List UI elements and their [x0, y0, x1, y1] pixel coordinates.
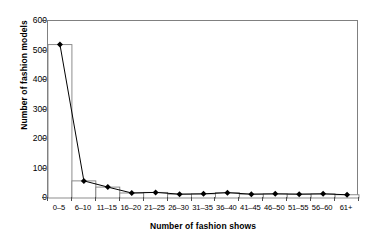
- y-tick-label: 0: [3, 192, 47, 202]
- x-tick-mark: [334, 197, 335, 201]
- plot-area: [47, 20, 358, 197]
- y-tick-mark: [42, 20, 46, 21]
- x-tick-label: 56–60: [312, 203, 333, 212]
- y-axis-ticks: 0100200300400500600: [0, 20, 47, 197]
- y-tick-label: 600: [3, 15, 47, 25]
- y-tick-mark: [42, 79, 46, 80]
- x-tick-label: 41–45: [240, 203, 261, 212]
- x-tick-label: 36–40: [216, 203, 237, 212]
- x-tick-mark: [358, 197, 359, 201]
- x-tick-mark: [262, 197, 263, 201]
- x-axis-ticks: 0–56–1011–1516–2021–2526–3031–3536–4041–…: [47, 197, 358, 219]
- x-tick-label: 0–5: [53, 203, 65, 212]
- x-tick-label: 11–15: [97, 203, 117, 212]
- x-tick-label: 6–10: [75, 203, 92, 212]
- x-tick-label: 51–55: [288, 203, 309, 212]
- y-tick-mark: [42, 50, 46, 51]
- x-tick-mark: [214, 197, 215, 201]
- y-tick-mark: [42, 168, 46, 169]
- y-tick-label: 100: [3, 163, 47, 173]
- x-tick-mark: [191, 197, 192, 201]
- x-tick-mark: [310, 197, 311, 201]
- y-tick-label: 300: [3, 104, 47, 114]
- chart-figure: Number of fashion models 010020030040050…: [0, 0, 380, 242]
- x-tick-mark: [143, 197, 144, 201]
- x-tick-mark: [238, 197, 239, 201]
- y-tick-mark: [42, 138, 46, 139]
- x-tick-mark: [167, 197, 168, 201]
- y-tick-mark: [42, 197, 46, 198]
- y-tick-label: 400: [3, 74, 47, 84]
- x-tick-label: 61+: [340, 203, 353, 212]
- x-tick-label: 16–20: [120, 203, 141, 212]
- series-line: [60, 45, 347, 195]
- y-tick-label: 500: [3, 45, 47, 55]
- x-tick-mark: [286, 197, 287, 201]
- x-tick-label: 46–50: [264, 203, 285, 212]
- x-tick-mark: [95, 197, 96, 201]
- x-tick-label: 31–35: [192, 203, 213, 212]
- x-tick-label: 26–30: [168, 203, 189, 212]
- data-series: [48, 21, 359, 198]
- y-tick-label: 200: [3, 133, 47, 143]
- x-tick-mark: [47, 197, 48, 201]
- x-tick-mark: [71, 197, 72, 201]
- x-tick-label: 21–25: [144, 203, 165, 212]
- plot-inner: [48, 21, 357, 196]
- y-tick-mark: [42, 109, 46, 110]
- bar: [48, 45, 72, 198]
- x-tick-mark: [119, 197, 120, 201]
- x-axis-title: Number of fashion shows: [48, 221, 358, 231]
